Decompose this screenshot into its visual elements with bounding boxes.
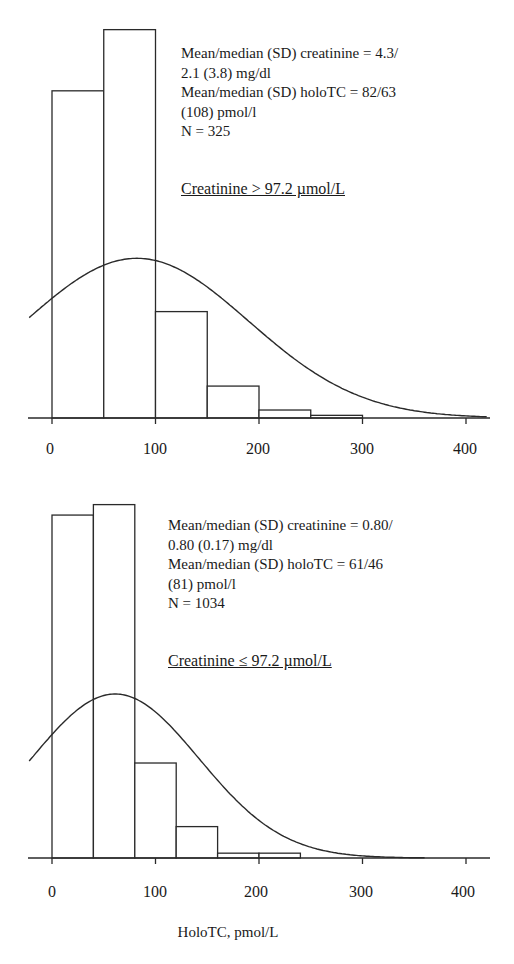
bottom-stats-line: Mean/median (SD) holoTC = 61/46 — [168, 555, 393, 575]
top-stats-line: Mean/median (SD) creatinine = 4.3/ — [181, 44, 398, 64]
top-tick-label: 400 — [453, 440, 477, 458]
top-stats-line: 2.1 (3.8) mg/dl — [181, 64, 398, 84]
top-tick-label: 200 — [246, 440, 270, 458]
bottom-x-ticks — [52, 858, 466, 864]
bottom-stats: Mean/median (SD) creatinine = 0.80/ 0.80… — [168, 516, 393, 614]
bottom-normal-curve — [29, 694, 424, 858]
bottom-subtitle: Creatinine ≤ 97.2 µmol/L — [168, 652, 332, 670]
top-stats: Mean/median (SD) creatinine = 4.3/ 2.1 (… — [181, 44, 398, 142]
histogram-bar — [207, 386, 259, 418]
top-stats-line: (108) pmol/l — [181, 103, 398, 123]
bottom-stats-line: N = 1034 — [168, 594, 393, 614]
histogram-bar — [218, 853, 259, 858]
histogram-bar — [176, 827, 217, 858]
histogram-bar — [259, 410, 311, 418]
bottom-tick-label: 400 — [451, 883, 475, 901]
histogram-bar — [93, 505, 134, 858]
bottom-stats-line: 0.80 (0.17) mg/dl — [168, 536, 393, 556]
top-tick-label: 100 — [143, 440, 167, 458]
bottom-tick-label: 300 — [349, 883, 373, 901]
x-axis-label: HoloTC, pmol/L — [178, 924, 279, 941]
bottom-tick-label: 0 — [48, 883, 56, 901]
histogram-bar — [52, 91, 104, 418]
top-stats-line: Mean/median (SD) holoTC = 82/63 — [181, 83, 398, 103]
histogram-bar — [259, 853, 300, 858]
top-tick-label: 0 — [46, 440, 54, 458]
top-tick-label: 300 — [350, 440, 374, 458]
bottom-tick-label: 100 — [143, 883, 167, 901]
histogram-bar — [156, 312, 208, 418]
histogram-bar — [52, 515, 93, 858]
top-stats-line: N = 325 — [181, 122, 398, 142]
bottom-stats-line: (81) pmol/l — [168, 575, 393, 595]
top-x-ticks — [52, 418, 466, 424]
histogram-bar — [135, 763, 176, 858]
bottom-tick-label: 200 — [244, 883, 268, 901]
histogram-bar — [104, 30, 156, 418]
top-subtitle: Creatinine > 97.2 µmol/L — [181, 180, 345, 198]
bottom-stats-line: Mean/median (SD) creatinine = 0.80/ — [168, 516, 393, 536]
